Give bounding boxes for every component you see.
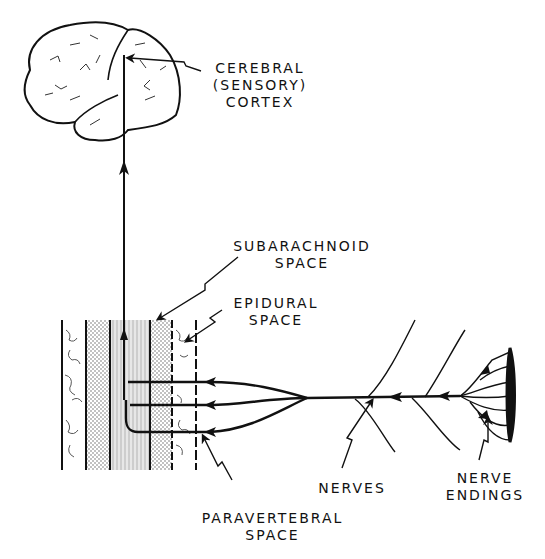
label-line: CORTEX [200, 94, 320, 111]
label-nerve-endings: NERVE ENDINGS [440, 470, 530, 504]
label-line: PARAVERTEBRAL [180, 510, 365, 527]
label-line: (SENSORY) [200, 77, 320, 94]
skin-surface [507, 348, 515, 442]
label-line: SPACE [180, 527, 365, 544]
label-line: NERVES [312, 480, 392, 497]
label-line: SUBARACHNOID [232, 238, 372, 255]
peripheral-nerve [307, 320, 465, 452]
label-line: ENDINGS [440, 487, 530, 504]
label-cerebral-cortex: CEREBRAL (SENSORY) CORTEX [200, 60, 320, 111]
label-nerves: NERVES [312, 480, 392, 497]
label-paravertebral-space: PARAVERTEBRAL SPACE [180, 510, 365, 544]
spinal-column [62, 320, 196, 470]
nerve-endings [460, 352, 510, 440]
label-line: SPACE [232, 255, 372, 272]
label-line: CEREBRAL [200, 60, 320, 77]
label-line: SPACE [226, 312, 326, 329]
label-epidural-space: EPIDURAL SPACE [226, 295, 326, 329]
label-line: EPIDURAL [226, 295, 326, 312]
label-subarachnoid-space: SUBARACHNOID SPACE [232, 238, 372, 272]
label-line: NERVE [440, 470, 530, 487]
brain-illustration [25, 22, 180, 140]
